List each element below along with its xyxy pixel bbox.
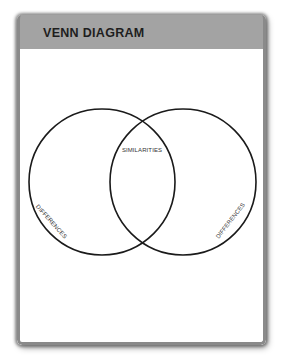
right-only-label: DIFFERENCES xyxy=(215,202,246,240)
venn-diagram: SIMILARITIES DIFFERENCES DIFFERENCES xyxy=(0,0,284,361)
left-circle xyxy=(29,109,175,255)
intersection-label: SIMILARITIES xyxy=(122,147,162,153)
right-circle xyxy=(110,109,256,255)
